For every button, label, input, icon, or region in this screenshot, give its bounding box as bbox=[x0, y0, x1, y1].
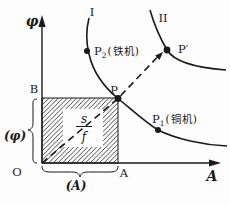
bottom-brace-label: (A) bbox=[66, 179, 87, 193]
point-p2-sub: 2 bbox=[102, 51, 107, 60]
y-axis-arrow-icon bbox=[38, 15, 45, 27]
square-label-a: A bbox=[119, 166, 129, 180]
bottom-brace bbox=[42, 166, 118, 177]
x-axis-arrow-icon bbox=[209, 159, 221, 166]
square-label-b: B bbox=[30, 82, 38, 96]
point-p1-note: (铜机) bbox=[166, 113, 198, 125]
fraction-numerator: s bbox=[81, 112, 87, 126]
left-brace-label: (φ) bbox=[4, 129, 26, 143]
origin-label: O bbox=[12, 165, 21, 179]
point-p2-note: (铁机) bbox=[108, 45, 140, 57]
y-axis-label: φ bbox=[26, 13, 39, 29]
figure-canvas: s f φ A O B A ( bbox=[0, 0, 230, 204]
curve-I-label: I bbox=[90, 5, 95, 19]
x-axis-label: A bbox=[205, 168, 218, 184]
point-p2-label: P2(铁机) bbox=[94, 44, 140, 60]
point-p1-label: P1(铜机) bbox=[152, 112, 198, 128]
point-p1-dot bbox=[155, 127, 161, 133]
curve-II-label: II bbox=[158, 11, 167, 25]
point-p-label: P bbox=[110, 83, 118, 97]
point-p1-sub: 1 bbox=[160, 119, 165, 128]
point-p-prime-dot bbox=[164, 47, 171, 54]
left-brace bbox=[28, 99, 37, 163]
diagram-svg: s f φ A O B A ( bbox=[0, 0, 230, 204]
point-p2-dot bbox=[84, 48, 90, 54]
point-p-prime-label: P′ bbox=[178, 42, 189, 56]
